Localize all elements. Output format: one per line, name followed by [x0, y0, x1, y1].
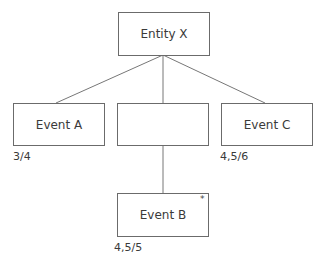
node-label: Event A	[36, 118, 82, 132]
node-label: Event B	[140, 208, 186, 222]
node-event-b: Event B	[117, 193, 209, 237]
node-event-c: Event C	[221, 103, 313, 146]
annotation-event-c: 4,5/6	[220, 150, 248, 163]
node-event-a: Event A	[13, 103, 105, 146]
node-label: Event C	[244, 118, 291, 132]
asterisk-marker: *	[200, 194, 205, 204]
node-label: Entity X	[140, 27, 187, 41]
annotation-event-a: 3/4	[13, 150, 31, 163]
annotation-event-b: 4,5/5	[114, 241, 142, 254]
node-empty	[117, 103, 209, 146]
root-node-entity-x: Entity X	[118, 12, 210, 56]
